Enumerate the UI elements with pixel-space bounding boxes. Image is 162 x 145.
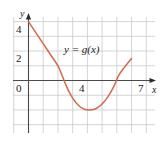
grid-vertical-lines [14, 17, 146, 133]
plot-canvas [0, 0, 162, 145]
x-axis-arrowhead [150, 78, 157, 83]
x-tick-label-4: 4 [79, 83, 85, 94]
y-tick-label-2: 2 [16, 53, 22, 64]
y-axis-arrowhead [26, 13, 31, 20]
y-tick-label-0: 0 [16, 83, 22, 94]
x-tick-label-7: 7 [138, 83, 144, 94]
grid-lines [13, 17, 155, 133]
x-axis-label: x [152, 85, 156, 95]
graph-figure: 4 2 0 4 7 y x y = g(x) [0, 0, 162, 145]
curve-annotation-label: y = g(x) [64, 44, 100, 55]
y-axis-label: y [20, 9, 24, 19]
y-tick-label-4: 4 [16, 24, 22, 35]
